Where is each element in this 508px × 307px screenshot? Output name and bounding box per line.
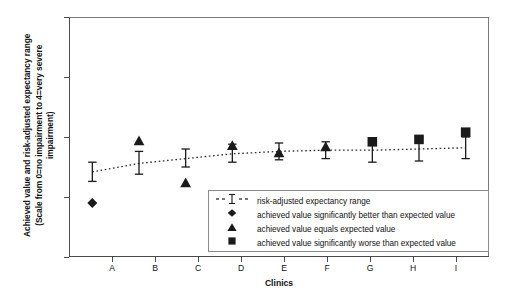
x-tick-mark-e <box>284 257 285 262</box>
chart-legend: risk-adjusted expectancy range achieved … <box>208 190 489 252</box>
chart-figure: Achieved value and risk-adjusted expecta… <box>0 0 508 307</box>
x-tick-mark-g <box>370 257 371 262</box>
x-tick-label-d: D <box>228 263 254 273</box>
y-tick-mark-1-5 <box>64 77 69 78</box>
y-axis-title: Achieved value and risk-adjusted expecta… <box>22 10 57 260</box>
y-tick-mark-0-5 <box>64 197 69 198</box>
x-axis-title: Clinics <box>69 278 489 288</box>
x-tick-mark-c <box>198 257 199 262</box>
x-tick-label-i: I <box>443 263 469 273</box>
x-tick-label-g: G <box>357 263 383 273</box>
x-tick-label-h: H <box>400 263 426 273</box>
x-tick-mark-i <box>456 257 457 262</box>
legend-label-equals-expected: achieved value equals expected value <box>257 225 395 234</box>
x-tick-mark-a <box>112 257 113 262</box>
legend-label-worse-than-expected: achieved value significantly worse than … <box>257 239 456 248</box>
legend-label-expectancy-range: risk-adjusted expectancy range <box>257 197 370 206</box>
x-tick-mark-h <box>413 257 414 262</box>
y-axis-title-line-3: impairment) <box>45 10 57 260</box>
x-tick-label-e: E <box>271 263 297 273</box>
x-tick-mark-d <box>241 257 242 262</box>
y-tick-mark-0 <box>64 257 69 258</box>
x-tick-label-a: A <box>99 263 125 273</box>
x-tick-label-c: C <box>185 263 211 273</box>
y-axis-title-line-2: (Scale from 0=no impairment to 4=very se… <box>33 10 45 260</box>
legend-label-better-than-expected: achieved value significantly better than… <box>257 211 455 220</box>
x-tick-label-b: B <box>142 263 168 273</box>
y-tick-mark-2 <box>64 17 69 18</box>
x-tick-label-f: F <box>314 263 340 273</box>
y-axis-title-line-1: Achieved value and risk-adjusted expecta… <box>22 34 32 237</box>
x-tick-mark-f <box>327 257 328 262</box>
square-icon <box>213 235 257 252</box>
x-tick-mark-b <box>155 257 156 262</box>
legend-row-worse-than-expected: achieved value significantly worse than … <box>209 236 488 250</box>
y-tick-mark-1 <box>64 137 69 138</box>
